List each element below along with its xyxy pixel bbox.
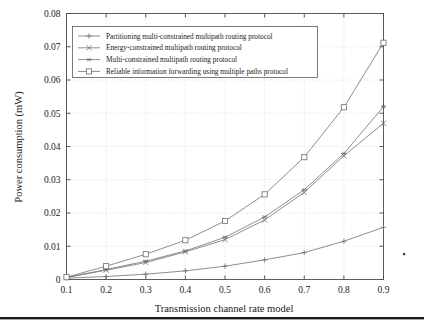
data-point-marker — [64, 275, 69, 280]
legend-label: Reliable information forwarding using mu… — [106, 67, 288, 76]
figure-container: 00.010.020.030.040.050.060.070.08 0.10.2… — [0, 0, 424, 330]
x-axis-title: Transmission channel rate model — [155, 303, 294, 314]
legend-marker-square-icon — [86, 69, 91, 74]
data-point-marker — [143, 252, 148, 257]
data-point-marker — [302, 155, 307, 160]
x-tick-label: 0.3 — [140, 285, 152, 295]
y-tick-label: 0.07 — [44, 42, 61, 52]
y-axis-title: Power consumption (mW) — [13, 91, 25, 203]
data-point-marker — [381, 40, 386, 45]
series-line — [67, 107, 384, 278]
x-tick-label: 0.6 — [259, 285, 271, 295]
data-point-marker — [302, 250, 307, 255]
legend-entry-4[interactable]: Reliable information forwarding using mu… — [78, 67, 288, 76]
data-point-marker — [143, 272, 148, 277]
data-point-marker — [183, 268, 188, 273]
x-tick-label: 0.5 — [219, 285, 231, 295]
legend-label: Energy-constrained multipath routing pro… — [106, 43, 242, 52]
data-point-marker — [262, 192, 267, 197]
y-tick-label: 0.02 — [44, 208, 61, 218]
x-tick-label: 0.8 — [338, 285, 350, 295]
x-axis-tick-labels: 0.10.20.30.40.50.60.70.80.9 — [61, 285, 390, 295]
y-tick-label: 0.06 — [44, 75, 61, 85]
data-point-marker — [183, 238, 188, 243]
y-tick-label: 0 — [56, 275, 61, 285]
y-axis-tick-labels: 00.010.020.030.040.050.060.070.08 — [44, 9, 61, 285]
legend-entry-1[interactable]: Partitioning multi-constrained multipath… — [78, 32, 273, 41]
data-point-marker — [104, 274, 109, 279]
scan-artifact-dot — [403, 253, 405, 255]
data-point-marker — [381, 225, 386, 230]
y-tick-label: 0.03 — [44, 175, 61, 185]
power-consumption-line-chart: 00.010.020.030.040.050.060.070.08 0.10.2… — [0, 0, 424, 330]
legend-label: Partitioning multi-constrained multipath… — [106, 32, 273, 41]
y-tick-label: 0.05 — [44, 109, 61, 119]
data-point-marker — [222, 218, 227, 223]
y-tick-label: 0.08 — [44, 9, 61, 19]
legend-label: Multi-constrained multipath routing prot… — [106, 55, 237, 64]
y-tick-label: 0.01 — [44, 242, 61, 252]
x-tick-label: 0.7 — [298, 285, 310, 295]
data-point-marker — [341, 105, 346, 110]
x-tick-label: 0.1 — [61, 285, 73, 295]
x-tick-label: 0.2 — [100, 285, 112, 295]
x-tick-label: 0.9 — [378, 285, 390, 295]
chart-legend: Partitioning multi-constrained multipath… — [73, 27, 318, 78]
data-point-marker — [222, 264, 227, 269]
y-tick-label: 0.04 — [44, 142, 61, 152]
data-point-marker — [104, 264, 109, 269]
series-line — [67, 227, 384, 278]
data-point-marker — [341, 239, 346, 244]
footer-rule — [0, 317, 424, 319]
x-tick-label: 0.4 — [179, 285, 191, 295]
data-point-marker — [262, 257, 267, 262]
